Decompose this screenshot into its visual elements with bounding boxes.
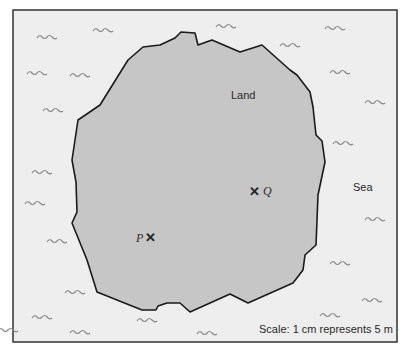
- scale-text: Scale: 1 cm represents 5 m: [259, 323, 393, 335]
- point-q-label: Q: [263, 184, 272, 199]
- point-q-cross-icon: ✕: [249, 185, 260, 198]
- island-map: [0, 0, 410, 353]
- point-p-label: P: [136, 231, 143, 246]
- land-label: Land: [231, 89, 255, 101]
- point-p-cross-icon: ✕: [145, 231, 156, 244]
- sea-label: Sea: [353, 181, 373, 193]
